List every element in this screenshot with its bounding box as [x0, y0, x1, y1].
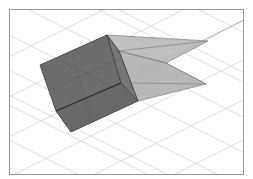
3d-viewport[interactable] [9, 9, 244, 175]
scene-canvas [10, 10, 243, 174]
